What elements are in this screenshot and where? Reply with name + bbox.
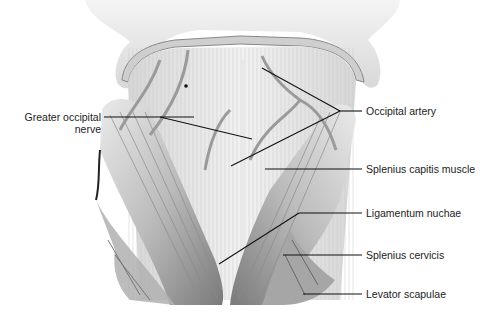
label-splenius-capitis: Splenius capitis muscle (366, 163, 475, 175)
label-ligamentum-nuchae: Ligamentum nuchae (366, 207, 461, 219)
label-splenius-cervicis: Splenius cervicis (366, 249, 444, 261)
label-greater-occipital-nerve-line1: Greater occipital (0, 111, 101, 123)
anatomy-illustration (0, 0, 502, 322)
label-occipital-artery: Occipital artery (366, 105, 436, 117)
label-greater-occipital-nerve: Greater occipital nerve (0, 111, 101, 135)
label-levator-scapulae: Levator scapulae (366, 288, 446, 300)
label-greater-occipital-nerve-line2: nerve (0, 123, 101, 135)
